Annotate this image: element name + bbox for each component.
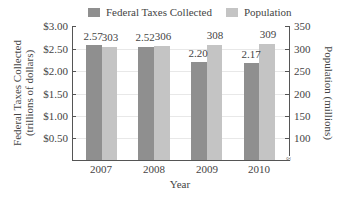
- y2-tick-label: 300: [294, 43, 311, 55]
- x-tick-label: 2009: [196, 163, 218, 175]
- y-axis-title-line2: (trillions of dollars): [23, 40, 35, 146]
- y-tick-label: $2.00: [43, 65, 68, 77]
- value-label-taxes-2010: 2.17: [241, 48, 260, 60]
- y2-tick-label: 100: [294, 132, 311, 144]
- legend-swatch-taxes: [88, 8, 100, 17]
- tick: [72, 94, 76, 95]
- x-tick-label: 2010: [248, 163, 270, 175]
- value-label-taxes-2007: 2.57: [83, 30, 102, 42]
- bar-taxes-2008: [138, 47, 154, 160]
- value-label-population-2010: 309: [260, 28, 277, 40]
- y2-tick-label: 150: [294, 110, 311, 122]
- tick: [72, 49, 76, 50]
- legend: Federal Taxes Collected Population: [88, 6, 306, 18]
- tick: [72, 71, 76, 72]
- bar-taxes-2007: [86, 45, 102, 160]
- tick: [285, 138, 289, 139]
- bar-population-2007: [102, 47, 117, 160]
- tick: [285, 94, 289, 95]
- tick: [285, 71, 289, 72]
- value-label-population-2008: 306: [155, 30, 172, 42]
- y2-tick-label: 200: [294, 88, 311, 100]
- bar-population-2009: [207, 45, 222, 160]
- y2-tick-label: 350: [294, 20, 311, 32]
- tick: [285, 49, 289, 50]
- y-tick-label: $1.50: [43, 88, 68, 100]
- tick: [72, 138, 76, 139]
- tick: [72, 26, 76, 27]
- value-label-taxes-2008: 2.52: [135, 31, 154, 43]
- bar-population-2008: [154, 46, 170, 160]
- tick: [72, 116, 76, 117]
- legend-item-population: Population: [226, 6, 292, 18]
- y-tick-label: $1.00: [43, 110, 68, 122]
- legend-item-taxes: Federal Taxes Collected: [88, 6, 212, 18]
- y2-axis-title: Population (millions): [323, 46, 335, 140]
- tick: [285, 26, 289, 27]
- y-tick-label: $3.00: [43, 20, 68, 32]
- legend-swatch-population: [226, 8, 238, 17]
- x-tick-label: 2007: [90, 163, 112, 175]
- bar-taxes-2009: [191, 62, 207, 160]
- axis-break-icon: ≈: [286, 154, 291, 164]
- bar-taxes-2010: [244, 63, 259, 160]
- y-tick-label: $2.50: [43, 43, 68, 55]
- right-axis: [289, 26, 290, 156]
- value-label-population-2007: 303: [102, 31, 119, 43]
- y2-tick-label: 250: [294, 65, 311, 77]
- y-axis-title-line1: Federal Taxes Collected: [11, 40, 23, 146]
- legend-label-population: Population: [244, 6, 292, 18]
- y-tick-label: $0.50: [43, 132, 68, 144]
- legend-label-taxes: Federal Taxes Collected: [106, 6, 212, 18]
- value-label-taxes-2009: 2.20: [188, 47, 207, 59]
- y-axis-title: Federal Taxes Collected (trillions of do…: [11, 40, 35, 146]
- value-label-population-2009: 308: [207, 29, 224, 41]
- tick: [285, 116, 289, 117]
- plot-area: [72, 26, 289, 160]
- bar-population-2010: [259, 44, 275, 160]
- x-axis: [72, 160, 290, 161]
- x-axis-title: Year: [170, 178, 190, 190]
- x-tick-label: 2008: [143, 163, 165, 175]
